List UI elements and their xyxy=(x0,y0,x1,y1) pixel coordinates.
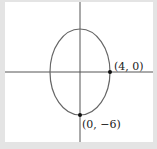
point-vertex-y xyxy=(78,113,82,117)
label-point-0-neg6: (0, −6) xyxy=(82,118,121,131)
label-point-4-0: (4, 0) xyxy=(114,60,144,73)
ellipse-diagram: (4, 0) (0, −6) xyxy=(0,0,157,149)
point-vertex-x xyxy=(108,70,112,74)
